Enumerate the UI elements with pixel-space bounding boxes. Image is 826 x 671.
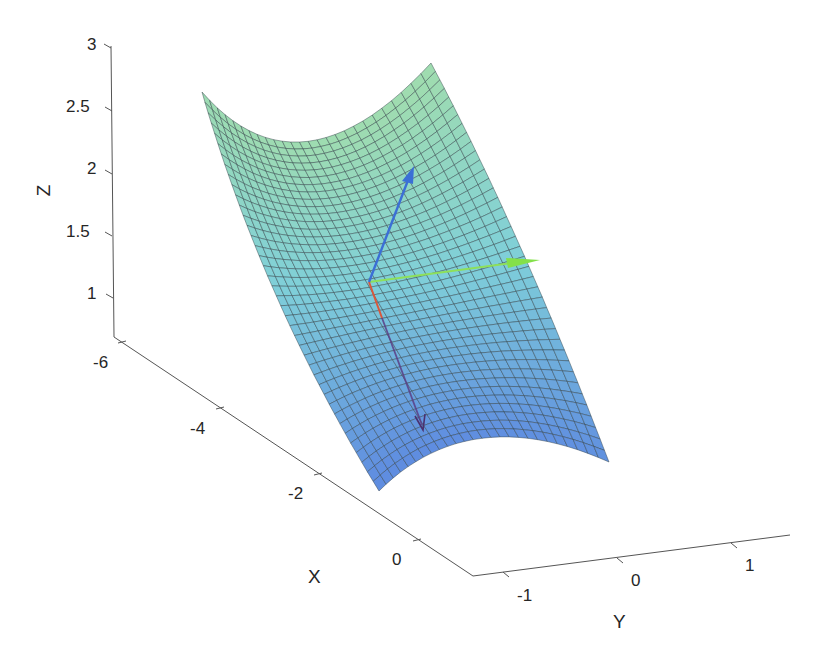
- z-tick: [104, 44, 111, 48]
- z-axis-label: Z: [34, 185, 53, 197]
- z-tick: [105, 232, 112, 236]
- z-tick-label: 3: [87, 36, 96, 53]
- y-axis-line: [473, 535, 790, 576]
- y-tick: [731, 543, 737, 548]
- z-axis-line: [111, 46, 114, 337]
- z-tick-label: 1: [87, 285, 96, 302]
- x-tick-label: -4: [190, 420, 205, 437]
- y-tick-label: -1: [517, 587, 532, 604]
- z-tick-label: 2: [87, 160, 96, 177]
- z-tick: [106, 294, 113, 298]
- x-tick-label: 0: [392, 551, 401, 568]
- x-tick-label: -2: [288, 485, 303, 502]
- z-tick: [105, 107, 112, 111]
- surface-plot: [0, 0, 826, 671]
- x-tick-label: -6: [93, 354, 108, 371]
- y-tick: [617, 558, 623, 563]
- z-tick-label: 2.5: [66, 98, 90, 115]
- y-tick-label: 0: [631, 572, 640, 589]
- x-axis-label: X: [308, 567, 321, 586]
- z-tick-label: 1.5: [66, 223, 90, 240]
- y-axis-label: Y: [613, 612, 626, 631]
- z-tick: [105, 170, 112, 174]
- y-tick-label: 1: [745, 557, 754, 574]
- y-tick: [503, 572, 509, 577]
